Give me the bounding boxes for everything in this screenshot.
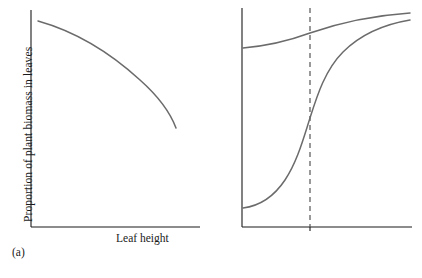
- panel-a-x-axis-label: Leaf height: [116, 232, 169, 244]
- panel-b-curve-dense: [243, 20, 410, 208]
- panel-a-curve-biomass: [38, 21, 176, 128]
- panel-b-plot: [211, 0, 422, 278]
- panel-b: Amount of photosynthesis per gram of lea…: [211, 0, 422, 278]
- panel-a: Proportion of plant biomass in leaves Le…: [0, 0, 211, 278]
- panel-a-y-axis-label: Proportion of plant biomass in leaves: [22, 47, 34, 222]
- panel-a-tag: (a): [12, 246, 25, 258]
- panel-b-curve-sparse: [243, 13, 410, 48]
- figure-container: Proportion of plant biomass in leaves Le…: [0, 0, 422, 278]
